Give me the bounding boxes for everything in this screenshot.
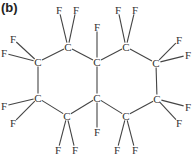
fluorine-atom-f9: F [94, 21, 100, 33]
bond-c3-f6 [16, 101, 35, 120]
atoms-layer: CCCCCCCCCCFFFFFFFFFFFFFFFFFF [1, 4, 191, 156]
bond-c1-f1 [60, 14, 67, 42]
bond-c3-f5 [8, 99, 33, 105]
fluorine-atom-f1: F [56, 4, 62, 16]
carbon-atom-c2: C [34, 56, 41, 68]
bond-c9-f15 [161, 100, 183, 106]
carbon-atom-c1: C [64, 41, 71, 53]
fluorine-atom-f7: F [55, 144, 61, 156]
bond-c8-f13 [159, 43, 176, 60]
fluorine-atom-f4: F [1, 47, 7, 59]
fluorine-atom-f13: F [176, 34, 182, 46]
fluorine-atom-f2: F [73, 4, 79, 16]
bond-c7-f12 [127, 14, 134, 42]
bond-c3-c4 [42, 100, 63, 113]
carbon-atom-c10: C [122, 110, 129, 122]
fluorine-atom-f3: F [10, 33, 16, 45]
carbon-atom-c4: C [63, 110, 70, 122]
bond-c5-c1 [72, 49, 93, 60]
bond-c9-c10 [130, 101, 153, 114]
bond-c10-f18 [127, 120, 134, 145]
fluorine-atom-f16: F [176, 117, 182, 129]
bond-c5-c7 [101, 49, 122, 60]
fluorine-atom-f10: F [94, 126, 100, 138]
bond-c10-c6 [101, 100, 122, 113]
bond-c7-f11 [119, 14, 125, 42]
carbon-atom-c5: C [93, 56, 100, 68]
bond-c4-f7 [59, 120, 66, 145]
carbon-atom-c9: C [153, 93, 160, 105]
fluorine-atom-f18: F [132, 144, 138, 156]
bond-c9-f16 [160, 102, 176, 119]
bond-c4-c6 [71, 100, 93, 113]
bond-c8-f14 [160, 56, 183, 62]
fluorine-atom-f6: F [10, 117, 16, 129]
carbon-atom-c7: C [122, 41, 129, 53]
fluorine-atom-f12: F [132, 4, 138, 16]
carbon-atom-c8: C [152, 57, 159, 69]
bond-c1-c2 [42, 49, 64, 60]
bond-c10-f17 [118, 120, 125, 145]
perfluorodecalin-structure: CCCCCCCCCCFFFFFFFFFFFFFFFFFF [0, 0, 192, 157]
fluorine-atom-f14: F [185, 49, 191, 61]
fluorine-atom-f11: F [115, 4, 121, 16]
fluorine-atom-f17: F [114, 144, 120, 156]
bond-c7-c8 [130, 49, 152, 61]
bond-c4-f8 [68, 120, 74, 145]
fluorine-atom-f5: F [1, 100, 7, 112]
carbon-atom-c3: C [34, 92, 41, 104]
bond-c1-f2 [69, 14, 75, 42]
bond-c8-c9 [156, 68, 157, 95]
fluorine-atom-f15: F [185, 101, 191, 113]
fluorine-atom-f8: F [72, 144, 78, 156]
carbon-atom-c6: C [93, 92, 100, 104]
